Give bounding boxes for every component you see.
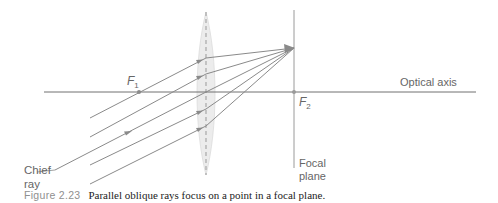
- chief-ray-label: Chief ray: [24, 163, 51, 191]
- optical-axis-label: Optical axis: [400, 76, 457, 89]
- figure-caption: Figure 2.23Parallel oblique rays focus o…: [24, 189, 325, 201]
- f2-point: [292, 90, 296, 94]
- optics-diagram: [0, 0, 498, 203]
- chief-ray: [55, 48, 294, 170]
- arrow-icon: [124, 131, 132, 136]
- f1-label: F1: [127, 75, 139, 92]
- figure-number: Figure 2.23: [24, 189, 80, 201]
- caption-text: Parallel oblique rays focus on a point i…: [88, 189, 325, 201]
- ray-1: [90, 48, 294, 118]
- focal-plane-label: Focal plane: [299, 157, 326, 183]
- f2-label: F2: [299, 96, 311, 113]
- parallel-rays: [55, 48, 294, 184]
